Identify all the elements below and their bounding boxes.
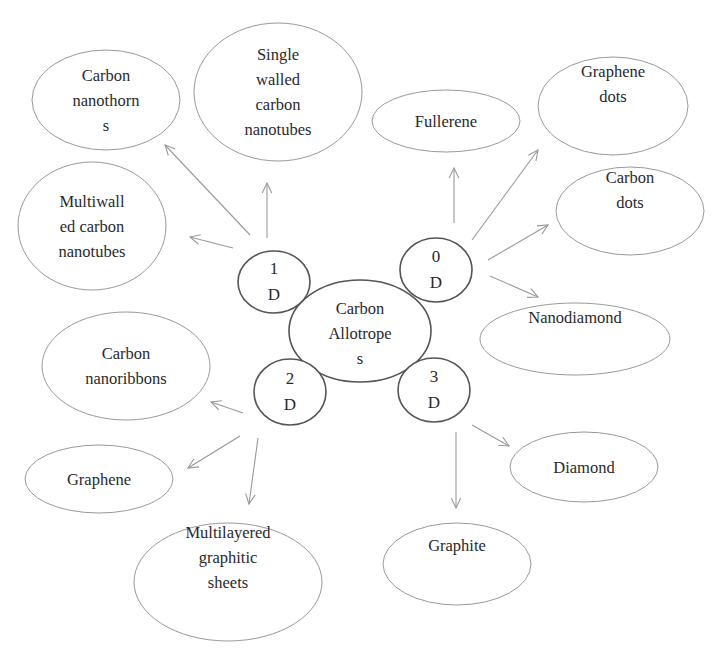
- graphene-dots-label-line: dots: [599, 84, 627, 109]
- arrow-2d-to-graphene: [188, 436, 240, 468]
- carbon-dots-label-line: Carbon: [606, 165, 655, 190]
- fullerene-label: Fullerene: [372, 109, 520, 134]
- carbon-allotropes-label-line: Allotrope: [328, 321, 391, 346]
- multiwalled-carbon-nanotubes-label-line: nanotubes: [59, 239, 126, 264]
- arrow-1d-to-multiwalled-carbon-nanotubes: [190, 235, 233, 248]
- dimension-3d-label-line: D: [428, 390, 440, 416]
- dimension-2d-label: 2D: [254, 366, 326, 418]
- single-walled-carbon-nanotubes-label-line: nanotubes: [245, 117, 312, 142]
- single-walled-carbon-nanotubes-label-line: Single: [257, 42, 299, 67]
- single-walled-carbon-nanotubes-label-line: walled: [256, 67, 300, 92]
- dimension-0d-label-line: 0: [432, 244, 441, 270]
- carbon-nanothorns-label: Carbonnanothorns: [32, 63, 180, 138]
- graphene-dots-label: Graphenedots: [538, 59, 688, 109]
- dimension-1d-label: 1D: [238, 256, 310, 308]
- diamond-label-line: Diamond: [553, 455, 614, 480]
- single-walled-carbon-nanotubes-label-line: carbon: [256, 92, 301, 117]
- dimension-3d-label-line: 3: [430, 364, 439, 390]
- single-walled-carbon-nanotubes-label: Singlewalledcarbonnanotubes: [194, 42, 362, 142]
- carbon-nanoribbons-label: Carbonnanoribbons: [42, 341, 210, 391]
- carbon-allotropes-label-line: Carbon: [336, 296, 385, 321]
- graphene-label: Graphene: [25, 467, 173, 492]
- dimension-2d-label-line: 2: [286, 366, 295, 392]
- carbon-nanothorns-label-line: Carbon: [82, 63, 131, 88]
- graphite-label-line: Graphite: [428, 533, 486, 558]
- graphene-dots-label-line: Graphene: [581, 59, 645, 84]
- carbon-nanoribbons-label-line: Carbon: [102, 341, 151, 366]
- dimension-3d-label: 3D: [398, 364, 470, 416]
- arrow-1d-to-carbon-nanothorns: [165, 145, 250, 235]
- carbon-nanothorns-label-line: nanothorn: [73, 88, 140, 113]
- multilayered-graphitic-sheets-label-line: graphitic: [199, 545, 258, 570]
- carbon-allotropes-label: CarbonAllotropes: [289, 296, 431, 371]
- arrow-2d-to-carbon-nanoribbons: [211, 401, 243, 413]
- arrow-0d-to-carbon-dots: [488, 225, 548, 260]
- fullerene-label-line: Fullerene: [415, 109, 477, 134]
- carbon-dots-label: Carbondots: [556, 165, 704, 215]
- multiwalled-carbon-nanotubes-label-line: ed carbon: [60, 214, 125, 239]
- arrow-3d-to-graphite: [451, 432, 461, 508]
- dimension-1d-label-line: D: [268, 282, 280, 308]
- carbon-nanoribbons-label-line: nanoribbons: [85, 366, 167, 391]
- carbon-dots-label-line: dots: [616, 190, 644, 215]
- dimension-1d-label-line: 1: [270, 256, 279, 282]
- multiwalled-carbon-nanotubes-label: Multiwalled carbonnanotubes: [18, 189, 166, 264]
- multiwalled-carbon-nanotubes-label-line: Multiwall: [59, 189, 124, 214]
- diamond-label: Diamond: [510, 455, 658, 480]
- multilayered-graphitic-sheets-label-line: Multilayered: [185, 520, 270, 545]
- multilayered-graphitic-sheets-label: Multilayeredgraphiticsheets: [134, 520, 322, 595]
- arrow-1d-to-single-walled-carbon-nanotubes: [262, 183, 272, 238]
- multilayered-graphitic-sheets-label-line: sheets: [208, 570, 248, 595]
- nanodiamond-label-line: Nanodiamond: [528, 305, 621, 330]
- nanodiamond-label: Nanodiamond: [480, 305, 670, 330]
- dimension-0d-label: 0D: [400, 244, 472, 296]
- arrow-0d-to-graphene-dots: [472, 150, 538, 240]
- arrow-2d-to-multilayered-graphitic-sheets: [246, 438, 258, 504]
- carbon-nanothorns-label-line: s: [103, 113, 109, 138]
- carbon-allotropes-label-line: s: [357, 346, 363, 371]
- arrow-0d-to-fullerene: [449, 168, 459, 223]
- graphite-label: Graphite: [383, 533, 531, 558]
- dimension-2d-label-line: D: [284, 392, 296, 418]
- graphene-label-line: Graphene: [67, 467, 131, 492]
- arrow-0d-to-nanodiamond: [490, 276, 538, 297]
- dimension-0d-label-line: D: [430, 270, 442, 296]
- arrow-3d-to-diamond: [472, 425, 509, 446]
